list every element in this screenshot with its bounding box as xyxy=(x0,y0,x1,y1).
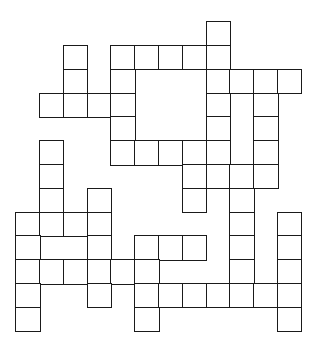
crossword-cell[interactable] xyxy=(63,259,88,284)
crossword-cell[interactable] xyxy=(182,235,207,260)
crossword-cell[interactable] xyxy=(229,212,254,237)
crossword-cell[interactable] xyxy=(110,45,135,70)
crossword-cell[interactable] xyxy=(229,283,254,308)
crossword-cell[interactable] xyxy=(206,93,231,118)
crossword-cell[interactable] xyxy=(253,140,278,165)
crossword-cell[interactable] xyxy=(206,283,231,308)
crossword-cell[interactable] xyxy=(39,140,64,165)
crossword-cell[interactable] xyxy=(229,235,254,260)
crossword-cell[interactable] xyxy=(182,188,207,213)
crossword-cell[interactable] xyxy=(277,307,302,332)
crossword-cell[interactable] xyxy=(87,212,112,237)
crossword-cell[interactable] xyxy=(110,93,135,118)
crossword-cell[interactable] xyxy=(158,45,183,70)
crossword-cell[interactable] xyxy=(182,164,207,189)
crossword-cell[interactable] xyxy=(253,69,278,94)
crossword-cell[interactable] xyxy=(277,235,302,260)
crossword-cell[interactable] xyxy=(253,116,278,141)
crossword-cell[interactable] xyxy=(206,140,231,165)
crossword-cell[interactable] xyxy=(87,93,112,118)
crossword-cell[interactable] xyxy=(15,212,40,237)
crossword-cell[interactable] xyxy=(63,69,88,94)
crossword-cell[interactable] xyxy=(134,235,159,260)
crossword-cell[interactable] xyxy=(87,259,112,284)
crossword-cell[interactable] xyxy=(39,259,64,284)
crossword-cell[interactable] xyxy=(158,235,183,260)
crossword-grid xyxy=(0,0,319,360)
crossword-cell[interactable] xyxy=(277,212,302,237)
crossword-cell[interactable] xyxy=(63,45,88,70)
crossword-cell[interactable] xyxy=(87,235,112,260)
crossword-cell[interactable] xyxy=(253,283,278,308)
crossword-cell[interactable] xyxy=(15,235,40,260)
crossword-cell[interactable] xyxy=(206,69,231,94)
crossword-cell[interactable] xyxy=(134,307,159,332)
crossword-cell[interactable] xyxy=(158,140,183,165)
crossword-cell[interactable] xyxy=(253,93,278,118)
crossword-cell[interactable] xyxy=(158,283,183,308)
crossword-cell[interactable] xyxy=(39,164,64,189)
crossword-cell[interactable] xyxy=(206,21,231,46)
crossword-cell[interactable] xyxy=(15,259,40,284)
crossword-cell[interactable] xyxy=(110,259,135,284)
crossword-cell[interactable] xyxy=(39,188,64,213)
crossword-cell[interactable] xyxy=(229,69,254,94)
crossword-cell[interactable] xyxy=(110,140,135,165)
crossword-cell[interactable] xyxy=(229,259,254,284)
crossword-cell[interactable] xyxy=(87,188,112,213)
crossword-cell[interactable] xyxy=(110,69,135,94)
crossword-cell[interactable] xyxy=(229,164,254,189)
crossword-cell[interactable] xyxy=(15,283,40,308)
crossword-cell[interactable] xyxy=(206,164,231,189)
crossword-cell[interactable] xyxy=(182,283,207,308)
crossword-cell[interactable] xyxy=(206,116,231,141)
crossword-cell[interactable] xyxy=(182,45,207,70)
crossword-cell[interactable] xyxy=(63,93,88,118)
crossword-cell[interactable] xyxy=(206,45,231,70)
crossword-cell[interactable] xyxy=(229,188,254,213)
crossword-cell[interactable] xyxy=(253,164,278,189)
crossword-cell[interactable] xyxy=(277,259,302,284)
crossword-cell[interactable] xyxy=(39,93,64,118)
crossword-cell[interactable] xyxy=(277,283,302,308)
crossword-cell[interactable] xyxy=(15,307,40,332)
crossword-cell[interactable] xyxy=(134,140,159,165)
crossword-cell[interactable] xyxy=(134,283,159,308)
crossword-cell[interactable] xyxy=(87,283,112,308)
crossword-cell[interactable] xyxy=(134,45,159,70)
crossword-cell[interactable] xyxy=(134,259,159,284)
crossword-cell[interactable] xyxy=(39,212,64,237)
crossword-cell[interactable] xyxy=(63,212,88,237)
crossword-cell[interactable] xyxy=(277,69,302,94)
crossword-cell[interactable] xyxy=(110,116,135,141)
crossword-cell[interactable] xyxy=(182,140,207,165)
